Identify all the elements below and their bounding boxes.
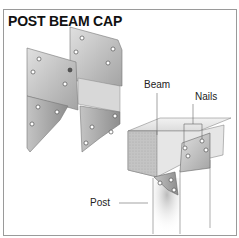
nail-head-icon xyxy=(68,68,72,72)
post-beam-cap-illustration xyxy=(0,0,239,238)
beam-label: Beam xyxy=(144,79,170,90)
post-beam-cap-part xyxy=(27,27,122,152)
assembled-post-beam xyxy=(119,93,231,234)
nails-label: Nails xyxy=(195,91,217,102)
post-label: Post xyxy=(90,197,110,208)
